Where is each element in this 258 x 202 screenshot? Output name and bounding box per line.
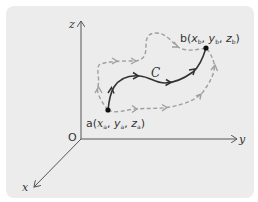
curve-label: C <box>151 66 160 80</box>
point-a <box>105 107 110 112</box>
y-axis-label: y <box>238 133 246 146</box>
x-axis <box>34 139 81 187</box>
svg-text:a(xa, ya, za): a(xa, ya, za) <box>86 117 145 130</box>
point-b-label: b(xb, yb, zb) <box>180 32 240 45</box>
z-axis-label: z <box>68 18 75 31</box>
origin-label: O <box>68 131 77 144</box>
x-axis-label: x <box>22 181 29 194</box>
point-a-label: a(xa, ya, za) <box>86 117 145 130</box>
lower-dashed-path <box>108 48 218 113</box>
arrow-icon <box>112 58 117 64</box>
svg-text:b(xb, yb, zb): b(xb, yb, zb) <box>180 32 240 45</box>
point-b <box>203 45 208 50</box>
path-diagram: O z y x C a(xa, ya, za) b(xb, <box>0 0 258 202</box>
